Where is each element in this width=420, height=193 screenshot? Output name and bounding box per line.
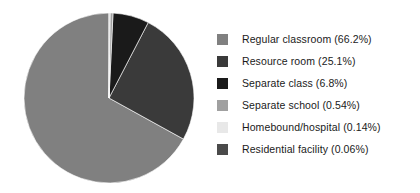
legend-swatch-icon-residential-facility	[217, 144, 228, 155]
legend-item-regular-classroom[interactable]: Regular classroom (66.2%)	[212, 28, 420, 50]
legend-swatch-icon-resource-room	[217, 56, 228, 67]
legend-label-homebound-hospital: Homebound/hospital (0.14%)	[242, 121, 381, 133]
pie-chart-svg	[0, 0, 210, 193]
legend-item-separate-school[interactable]: Separate school (0.54%)	[212, 94, 420, 116]
legend-label-residential-facility: Residential facility (0.06%)	[242, 143, 369, 155]
chart-legend: Regular classroom (66.2%) Resource room …	[212, 28, 420, 160]
legend-item-homebound-hospital[interactable]: Homebound/hospital (0.14%)	[212, 116, 420, 138]
legend-label-separate-school: Separate school (0.54%)	[242, 99, 360, 111]
legend-item-separate-class[interactable]: Separate class (6.8%)	[212, 72, 420, 94]
legend-label-separate-class: Separate class (6.8%)	[242, 77, 347, 89]
pie-chart-figure: Regular classroom (66.2%) Resource room …	[0, 0, 420, 193]
legend-swatch-icon-regular-classroom	[217, 34, 228, 45]
legend-swatch-icon-separate-class	[217, 78, 228, 89]
pie-chart-area	[0, 0, 210, 193]
legend-label-regular-classroom: Regular classroom (66.2%)	[242, 33, 372, 45]
legend-swatch-icon-separate-school	[217, 100, 228, 111]
legend-swatch-icon-homebound-hospital	[217, 122, 228, 133]
legend-item-resource-room[interactable]: Resource room (25.1%)	[212, 50, 420, 72]
legend-label-resource-room: Resource room (25.1%)	[242, 55, 356, 67]
legend-item-residential-facility[interactable]: Residential facility (0.06%)	[212, 138, 420, 160]
